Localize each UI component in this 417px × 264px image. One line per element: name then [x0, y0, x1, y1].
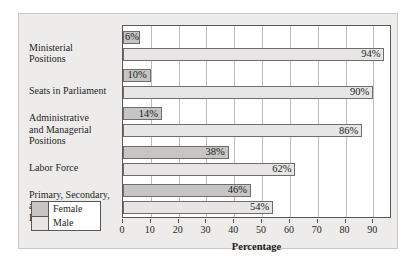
axis-tick-label: 90 [367, 224, 377, 235]
category-label-line: Positions [29, 53, 121, 65]
category-label-line: Ministerial [29, 42, 121, 54]
bar-value-label: 38% [205, 147, 227, 158]
plot-area: 6%94%10%90%14%86%38%62%46%54% [122, 25, 391, 218]
bar-female: 14% [123, 107, 162, 120]
bar-value-label: 90% [350, 87, 372, 98]
axis-tick [345, 219, 346, 223]
axis-tick [233, 219, 234, 223]
axis-tick-label: 80 [340, 224, 350, 235]
axis-tick-label: 60 [284, 224, 294, 235]
x-axis: Percentage 0102030405060708090 [122, 219, 391, 259]
axis-tick-label: 40 [228, 224, 238, 235]
bar-male: 86% [123, 124, 362, 137]
bar-female: 46% [123, 184, 251, 197]
axis-tick [261, 219, 262, 223]
axis-tick [317, 219, 318, 223]
axis-tick-label: 50 [256, 224, 266, 235]
bar-value-label: 6% [125, 32, 139, 43]
bar-male: 62% [123, 163, 295, 176]
legend-item-male: Male [32, 216, 100, 230]
axis-tick-label: 10 [145, 224, 155, 235]
bar-value-label: 14% [139, 109, 161, 120]
axis-tick-label: 70 [312, 224, 322, 235]
bar-female: 38% [123, 146, 229, 159]
legend-swatch-male [32, 216, 49, 230]
bar-value-label: 54% [250, 202, 272, 213]
category-label-line: Administrative [29, 112, 121, 124]
x-axis-title: Percentage [122, 241, 391, 252]
category-label-line: and Managerial [29, 124, 121, 136]
category-label: Seats in Parliament [29, 85, 121, 97]
category-label: MinisterialPositions [29, 42, 121, 65]
bar-male: 90% [123, 86, 373, 99]
category-label: Labor Force [29, 162, 121, 174]
axis-tick-label: 20 [173, 224, 183, 235]
legend-label-male: Male [49, 218, 74, 228]
axis-tick [122, 219, 123, 223]
chart-legend: Female Male [31, 201, 101, 231]
axis-tick [150, 219, 151, 223]
bar-female: 10% [123, 69, 151, 82]
legend-item-female: Female [32, 202, 100, 216]
bar-female: 6% [123, 31, 140, 44]
category-label: Administrativeand ManagerialPositions [29, 112, 121, 147]
legend-swatch-female [32, 202, 49, 216]
axis-tick-label: 30 [200, 224, 210, 235]
bar-value-label: 62% [272, 164, 294, 175]
bar-value-label: 86% [339, 126, 361, 137]
axis-tick [289, 219, 290, 223]
category-label-line: Seats in Parliament [29, 85, 121, 97]
chart-panel: 6%94%10%90%14%86%38%62%46%54% Ministeria… [18, 13, 398, 249]
axis-tick-label: 0 [120, 224, 125, 235]
axis-tick [205, 219, 206, 223]
category-label-line: Labor Force [29, 162, 121, 174]
bar-value-label: 94% [361, 49, 383, 60]
bar-value-label: 46% [228, 185, 250, 196]
axis-tick [178, 219, 179, 223]
legend-label-female: Female [49, 204, 82, 214]
bar-male: 54% [123, 201, 273, 214]
bar-value-label: 10% [128, 70, 150, 81]
bar-male: 94% [123, 48, 384, 61]
axis-tick [372, 219, 373, 223]
category-label-line: Primary, Secondary, [29, 189, 121, 201]
category-label-line: Positions [29, 135, 121, 147]
